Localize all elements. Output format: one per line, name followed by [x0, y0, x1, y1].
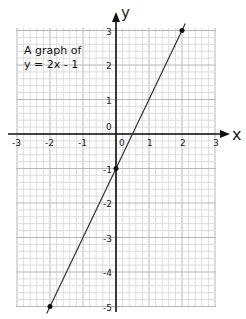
y-tick-label: -4	[103, 268, 112, 278]
y-axis-arrow-icon	[112, 12, 120, 22]
x-tick-label: -1	[78, 138, 87, 148]
y-axis-label: y	[121, 4, 130, 22]
y-tick-label: -1	[103, 165, 112, 175]
data-point	[180, 28, 185, 33]
data-point	[114, 166, 119, 171]
title-line-1: A graph of	[24, 44, 81, 58]
x-tick-label: 3	[213, 138, 219, 148]
chart-title: A graph of y = 2х - 1	[24, 44, 81, 72]
x-tick-label: -3	[12, 138, 21, 148]
y-tick-label: -5	[103, 303, 112, 313]
y-tick-label: 2	[106, 61, 112, 71]
y-tick-label: 0	[106, 122, 112, 132]
x-axis-label: х	[232, 125, 241, 144]
y-tick-label: 1	[106, 96, 112, 106]
title-line-2: y = 2х - 1	[24, 58, 81, 72]
x-tick-label: 1	[147, 138, 153, 148]
y-tick-label: -3	[103, 234, 112, 244]
x-tick-label: 0	[119, 138, 125, 148]
x-tick-label: 2	[180, 138, 186, 148]
x-axis-arrow-icon	[220, 130, 230, 138]
x-tick-label: -2	[45, 138, 54, 148]
y-tick-label: 3	[106, 27, 112, 37]
data-point	[48, 304, 53, 309]
y-tick-label: -2	[103, 199, 112, 209]
